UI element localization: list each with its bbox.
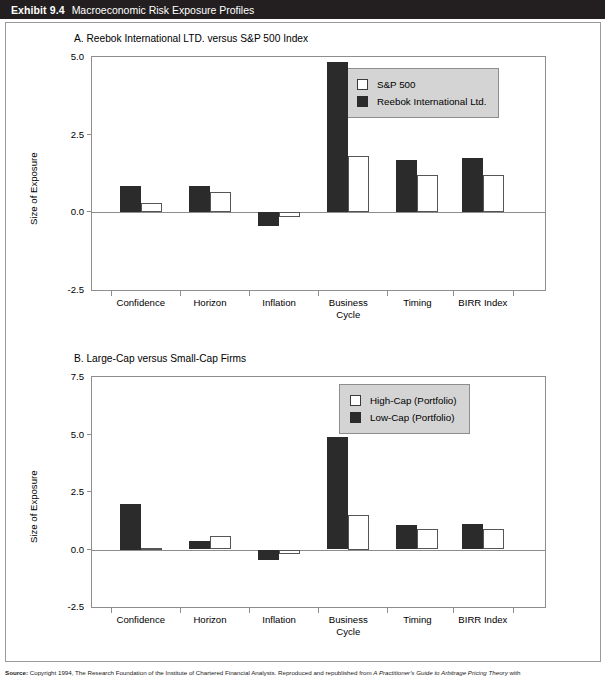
legend-label: Reebok International Ltd. — [377, 96, 486, 107]
panel-a-y-axis-title: Size of Exposure — [28, 152, 39, 225]
bar — [279, 550, 300, 554]
x-category-label: Confidence — [117, 614, 166, 626]
chart-panel-b: B. Large-Cap versus Small-Cap Firms High… — [6, 353, 602, 658]
bar — [258, 550, 279, 560]
bar — [189, 541, 210, 549]
bar — [462, 158, 483, 212]
x-tick-mark — [513, 608, 514, 613]
bar — [258, 212, 279, 226]
panel-b-legend: High-Cap (Portfolio) Low-Cap (Portfolio) — [339, 384, 470, 434]
legend-label: Low-Cap (Portfolio) — [370, 412, 454, 423]
x-category-label: Inflation — [262, 297, 296, 309]
bar — [327, 62, 348, 213]
y-tick-mark — [87, 134, 92, 135]
x-tick-mark — [318, 291, 319, 296]
x-category-label: Business Cycle — [329, 614, 368, 638]
bar — [120, 504, 141, 550]
y-tick-label: 0.0 — [71, 543, 84, 554]
x-tick-mark — [249, 291, 250, 296]
x-category-label: Horizon — [193, 297, 226, 309]
y-tick-label: 2.5 — [71, 486, 84, 497]
bar — [417, 175, 438, 212]
x-category-label: Inflation — [262, 614, 296, 626]
bar — [210, 536, 231, 550]
exhibit-number: Exhibit 9.4 — [11, 4, 65, 16]
y-tick-mark — [87, 549, 92, 550]
x-category-label: Horizon — [193, 614, 226, 626]
x-category-label: BIRR Index — [458, 614, 507, 626]
panel-a-title: A. Reebok International LTD. versus S&P … — [74, 33, 308, 44]
x-category-label: BIRR Index — [458, 297, 507, 309]
x-tick-mark — [453, 608, 454, 613]
bar — [483, 529, 504, 550]
legend-row: High-Cap (Portfolio) — [350, 392, 457, 409]
bar — [141, 203, 162, 212]
legend-swatch-light-icon — [350, 395, 361, 406]
y-tick-label: 2.5 — [71, 128, 84, 139]
x-category-label: Timing — [403, 297, 431, 309]
chart-panel-a: A. Reebok International LTD. versus S&P … — [6, 33, 602, 343]
x-tick-mark — [111, 608, 112, 613]
legend-swatch-dark-icon — [357, 96, 368, 107]
source-text-after: with — [508, 669, 521, 676]
x-tick-mark — [387, 291, 388, 296]
source-note: Source: Copyright 1994, The Research Fou… — [5, 668, 601, 677]
x-category-label: Confidence — [117, 297, 166, 309]
source-text-before: Copyright 1994, The Research Foundation … — [28, 669, 373, 676]
panel-b-y-axis-title: Size of Exposure — [28, 470, 39, 543]
bar — [327, 437, 348, 550]
y-tick-label: -2.5 — [67, 601, 84, 612]
x-tick-mark — [513, 291, 514, 296]
legend-row: Low-Cap (Portfolio) — [350, 409, 457, 426]
y-tick-mark — [87, 491, 92, 492]
bar — [348, 515, 369, 550]
bar — [141, 548, 162, 550]
x-tick-mark — [111, 291, 112, 296]
y-tick-label: 0.0 — [71, 206, 84, 217]
zero-baseline — [92, 212, 545, 213]
panel-a-legend: S&P 500 Reebok International Ltd. — [346, 68, 499, 118]
panel-b-plot-area — [91, 376, 546, 608]
x-category-label: Business Cycle — [329, 297, 368, 321]
y-tick-label: 7.5 — [71, 371, 84, 382]
exhibit-title: Macroeconomic Risk Exposure Profiles — [72, 4, 255, 16]
source-label: Source: — [5, 669, 28, 676]
bar — [483, 175, 504, 212]
y-tick-label: -2.5 — [67, 284, 84, 295]
y-tick-label: 5.0 — [71, 428, 84, 439]
x-tick-mark — [249, 608, 250, 613]
x-category-label: Timing — [403, 614, 431, 626]
bar — [189, 186, 210, 212]
legend-swatch-dark-icon — [350, 412, 361, 423]
bar — [462, 524, 483, 549]
legend-label: High-Cap (Portfolio) — [370, 395, 457, 406]
panel-b-title: B. Large-Cap versus Small-Cap Firms — [74, 353, 246, 364]
legend-row: S&P 500 — [357, 76, 486, 93]
panel-b-plot-wrap: High-Cap (Portfolio) Low-Cap (Portfolio)… — [91, 376, 546, 608]
y-tick-mark — [87, 434, 92, 435]
figure-frame: A. Reebok International LTD. versus S&P … — [5, 22, 601, 662]
bar — [396, 525, 417, 549]
y-tick-mark — [87, 211, 92, 212]
bar — [348, 156, 369, 212]
legend-swatch-light-icon — [357, 79, 368, 90]
y-tick-label: 5.0 — [71, 51, 84, 62]
x-tick-mark — [318, 608, 319, 613]
legend-row: Reebok International Ltd. — [357, 93, 486, 110]
bar — [279, 212, 300, 217]
legend-label: S&P 500 — [377, 79, 416, 90]
bar — [396, 160, 417, 213]
bar — [120, 186, 141, 212]
bar — [210, 192, 231, 212]
exhibit-header-bar: Exhibit 9.4 Macroeconomic Risk Exposure … — [0, 0, 605, 19]
x-tick-mark — [180, 608, 181, 613]
x-tick-mark — [387, 608, 388, 613]
source-publication-title: A Practitioner's Guide to Arbitrage Pric… — [373, 669, 508, 676]
x-tick-mark — [453, 291, 454, 296]
x-tick-mark — [180, 291, 181, 296]
panel-a-plot-wrap: S&P 500 Reebok International Ltd. 5.02.5… — [91, 56, 546, 291]
bar — [417, 529, 438, 550]
